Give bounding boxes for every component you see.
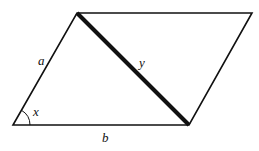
label-x: x	[32, 104, 39, 119]
label-b: b	[102, 130, 109, 145]
label-a: a	[38, 53, 45, 68]
label-y: y	[137, 55, 145, 70]
diagonal-y	[77, 13, 189, 125]
parallelogram-diagram: a y x b	[0, 0, 259, 151]
angle-x-arc	[22, 110, 31, 125]
